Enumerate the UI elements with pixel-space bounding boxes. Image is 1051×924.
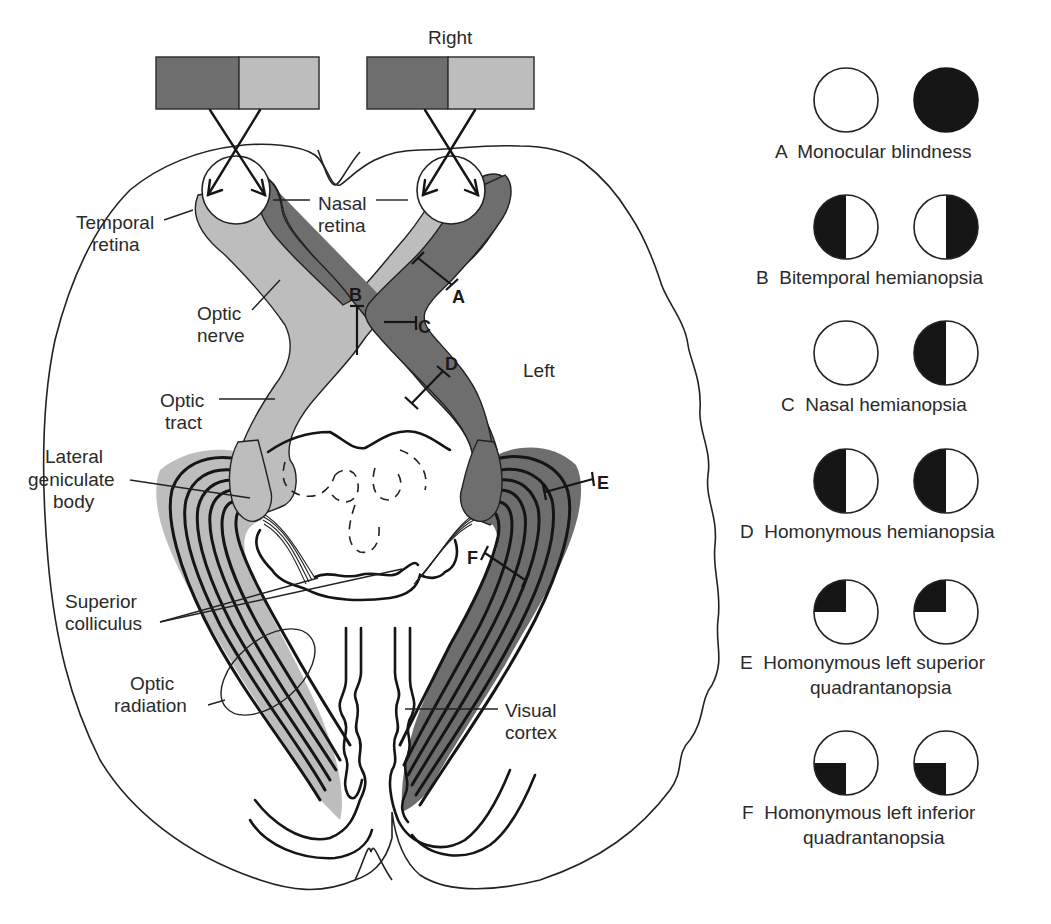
svg-text:nerve: nerve xyxy=(197,325,245,346)
svg-text:Optic: Optic xyxy=(197,303,241,324)
legend-caption: F Homonymous left inferior xyxy=(742,802,976,823)
svg-text:retina: retina xyxy=(318,215,366,236)
legend-item-F: F Homonymous left inferior quadrantanops… xyxy=(742,731,978,848)
midbrain-outline xyxy=(268,431,450,452)
right-visual-field-bar xyxy=(367,57,534,109)
svg-text:E: E xyxy=(597,473,609,493)
svg-text:Visual: Visual xyxy=(505,700,556,721)
legend-item-E: E Homonymous left superior quadrantanops… xyxy=(740,580,986,698)
legend-item-D: D Homonymous hemianopsia xyxy=(740,449,995,542)
svg-text:Optic: Optic xyxy=(130,673,174,694)
brain-outline xyxy=(44,144,719,889)
svg-text:Superior: Superior xyxy=(65,591,137,612)
svg-text:retina: retina xyxy=(92,234,140,255)
right-orientation-label: Right xyxy=(428,27,473,48)
svg-text:tract: tract xyxy=(165,412,203,433)
svg-text:B: B xyxy=(349,285,362,305)
svg-text:Lateral: Lateral xyxy=(45,446,103,467)
legend-caption: B Bitemporal hemianopsia xyxy=(756,267,983,288)
field-right-eye xyxy=(914,731,978,795)
field-left-eye xyxy=(814,68,878,132)
left-lateral-geniculate-body xyxy=(461,440,503,521)
svg-text:geniculate: geniculate xyxy=(28,469,115,490)
field-left-eye xyxy=(814,731,878,795)
field-left-eye xyxy=(814,580,878,644)
field-left-eye xyxy=(814,449,878,513)
svg-text:cortex: cortex xyxy=(505,722,557,743)
field-right-eye xyxy=(914,449,978,513)
legend-caption-line2: quadrantanopsia xyxy=(810,677,952,698)
svg-text:Temporal: Temporal xyxy=(76,212,154,233)
field-right-eye xyxy=(914,68,978,132)
field-left-eye xyxy=(814,195,878,259)
svg-text:Nasal: Nasal xyxy=(318,193,367,214)
frontal-cleft xyxy=(318,150,360,185)
svg-text:radiation: radiation xyxy=(114,695,187,716)
svg-text:D: D xyxy=(445,354,458,374)
legend-caption: E Homonymous left superior xyxy=(740,652,986,673)
left-visual-field-bar xyxy=(156,57,319,109)
label-temporal-retina: Temporal retina xyxy=(76,210,193,255)
svg-text:C: C xyxy=(418,317,431,337)
thalamus-inner-outline xyxy=(315,563,418,577)
legend-item-C: C Nasal hemianopsia xyxy=(781,321,978,415)
field-right-eye xyxy=(914,321,978,385)
field-right-eye xyxy=(914,195,978,259)
field-right-eye xyxy=(914,580,978,644)
svg-text:F: F xyxy=(467,548,478,568)
visual-pathway-diagram: Right xyxy=(0,0,1051,924)
svg-text:Optic: Optic xyxy=(160,390,204,411)
thalamic-nuclei xyxy=(283,450,426,552)
legend-caption-line2: quadrantanopsia xyxy=(803,827,945,848)
svg-text:body: body xyxy=(53,491,95,512)
legend-caption: A Monocular blindness xyxy=(775,141,971,162)
left-hemisphere-label: Left xyxy=(523,360,555,381)
svg-text:colliculus: colliculus xyxy=(65,613,142,634)
legend-caption: D Homonymous hemianopsia xyxy=(740,521,995,542)
legend-caption: C Nasal hemianopsia xyxy=(781,394,967,415)
field-left-eye xyxy=(814,321,878,385)
legend-item-B: B Bitemporal hemianopsia xyxy=(756,195,983,288)
svg-text:A: A xyxy=(452,287,465,307)
legend-item-A: A Monocular blindness xyxy=(775,68,978,162)
